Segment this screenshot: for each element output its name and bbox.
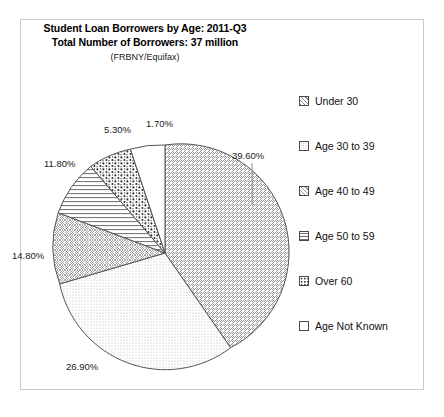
legend-swatch-coarse-speckle-icon: [299, 276, 309, 286]
legend-swatch-crosshatch-icon: [299, 186, 309, 196]
pie-slices: [53, 144, 289, 370]
legend-label-over-60: Over 60: [315, 275, 352, 287]
pie-value-label-age-30-39: 26.90%: [66, 361, 98, 372]
legend-item-age-40-49[interactable]: Age 40 to 49: [299, 168, 429, 213]
pie-chart-svg: [0, 0, 300, 417]
legend-item-age-50-59[interactable]: Age 50 to 59: [299, 213, 429, 258]
legend-item-over-60[interactable]: Over 60: [299, 258, 429, 303]
legend-label-under-30: Under 30: [315, 95, 358, 107]
pie-value-label-age-40-49: 14.80%: [12, 250, 44, 261]
legend-item-under-30[interactable]: Under 30: [299, 78, 429, 123]
legend-item-age-30-39[interactable]: Age 30 to 39: [299, 123, 429, 168]
legend-label-age-40-49: Age 40 to 49: [315, 185, 375, 197]
legend-swatch-blank-icon: [299, 321, 309, 331]
legend-swatch-horizontal-lines-icon: [299, 231, 309, 241]
pie-value-label-under-30: 39.60%: [232, 150, 264, 161]
legend-label-age-30-39: Age 30 to 39: [315, 140, 375, 152]
legend-swatch-fine-dots-icon: [299, 141, 309, 151]
legend-label-age-not-known: Age Not Known: [315, 320, 388, 332]
pie-value-label-age-not-known: 1.70%: [146, 118, 173, 129]
legend-label-age-50-59: Age 50 to 59: [315, 230, 375, 242]
legend-swatch-diagonal-hatch-icon: [299, 96, 309, 106]
pie-value-label-age-50-59: 11.80%: [44, 158, 76, 169]
chart-legend: Under 30 Age 30 to 39 Age 40 to 49 Age 5…: [299, 78, 429, 348]
legend-item-age-not-known[interactable]: Age Not Known: [299, 303, 429, 348]
pie-chart-area: 39.60% 26.90% 14.80% 11.80% 5.30% 1.70%: [0, 0, 300, 417]
pie-value-label-over-60: 5.30%: [104, 124, 131, 135]
